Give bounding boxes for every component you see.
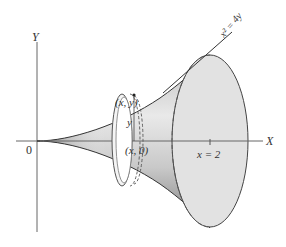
curve-label: x² = 4y <box>216 10 244 40</box>
y-axis-label: Y <box>32 30 40 44</box>
origin-label: 0 <box>26 143 32 157</box>
axis-point-label: (x, 0) <box>125 144 149 157</box>
slice-ring-front <box>116 97 132 183</box>
radius-label: y <box>126 116 132 128</box>
point-xy-label: (x, y) <box>115 96 138 109</box>
x-axis-label: X <box>265 134 274 148</box>
solid-of-revolution-diagram: Y X 0 x = 2 x² = 4y (x, y) y (x, 0) <box>0 0 286 247</box>
bound-label: x = 2 <box>196 148 221 160</box>
